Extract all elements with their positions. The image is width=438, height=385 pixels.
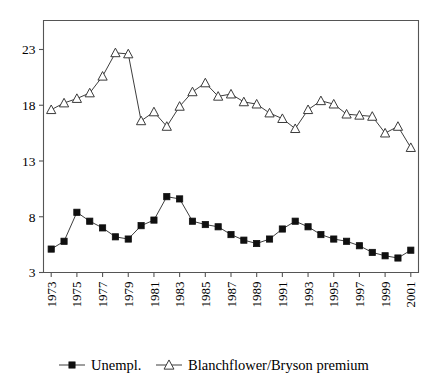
legend-label: Unempl. (91, 357, 141, 373)
data-point-marker-square (382, 253, 388, 259)
data-point-marker-square (343, 238, 349, 244)
data-point-marker-square (292, 218, 298, 224)
data-point-marker-square (331, 236, 337, 242)
data-point-marker-square (177, 196, 183, 202)
y-axis-tick-label: 8 (29, 210, 36, 225)
data-point-marker-triangle (149, 107, 158, 116)
data-point-marker-triangle (72, 94, 81, 103)
data-point-marker-triangle (85, 88, 94, 97)
data-point-marker-triangle (47, 105, 56, 114)
data-point-marker-triangle (188, 87, 197, 96)
y-axis-ticks: 38131823 (22, 42, 44, 280)
data-point-marker-triangle (303, 105, 312, 114)
data-point-marker-square (138, 223, 144, 229)
y-axis-tick-label: 18 (22, 98, 36, 113)
x-axis-tick-label: 1993 (301, 282, 316, 308)
data-point-marker-square (189, 218, 195, 224)
chart-figure: 38131823 1973197519771979198119831985198… (0, 0, 438, 385)
data-point-marker-square (318, 231, 324, 237)
data-point-marker-square (151, 217, 157, 223)
series-line-path (51, 53, 411, 148)
data-point-marker-square (305, 224, 311, 230)
x-axis-tick-label: 1995 (326, 282, 341, 308)
data-point-marker-triangle (201, 78, 210, 87)
data-point-marker-triangle (342, 109, 351, 118)
x-axis-tick-label: 1985 (198, 282, 213, 308)
x-axis-ticks: 1973197519771979198119831985198719891991… (44, 273, 419, 308)
x-axis-tick-label: 1979 (121, 282, 136, 308)
x-axis-tick-label: 1973 (44, 282, 59, 308)
data-series (47, 48, 416, 261)
series-unempl (48, 194, 414, 262)
legend-item-premium[interactable]: Blanchflower/Bryson premium (156, 357, 370, 373)
x-axis-tick-label: 1991 (275, 282, 290, 308)
data-point-marker-square (408, 247, 414, 253)
x-axis-tick-label: 1999 (378, 282, 393, 308)
data-point-marker-square (69, 362, 75, 368)
data-point-marker-triangle (380, 128, 389, 137)
x-axis-tick-label: 1977 (95, 281, 110, 308)
data-point-marker-triangle (265, 108, 274, 117)
data-point-marker-square (125, 236, 131, 242)
data-point-marker-square (61, 238, 67, 244)
legend-label: Blanchflower/Bryson premium (188, 357, 370, 373)
series-premium (47, 48, 416, 151)
data-point-marker-square (254, 240, 260, 246)
x-axis-tick-label: 2001 (403, 282, 418, 308)
line-chart: 38131823 1973197519771979198119831985198… (0, 0, 438, 385)
x-axis-tick-label: 1989 (249, 282, 264, 308)
legend-item-unempl[interactable]: Unempl. (59, 357, 141, 373)
data-point-marker-square (164, 194, 170, 200)
data-point-marker-square (112, 234, 118, 240)
data-point-marker-square (228, 231, 234, 237)
data-point-marker-triangle (98, 72, 107, 81)
data-point-marker-square (356, 243, 362, 249)
data-point-marker-triangle (226, 89, 235, 98)
data-point-marker-square (202, 221, 208, 227)
data-point-marker-triangle (136, 116, 145, 125)
data-point-marker-square (241, 237, 247, 243)
x-axis-tick-label: 1983 (172, 282, 187, 308)
data-point-marker-triangle (316, 96, 325, 105)
data-point-marker-square (215, 224, 221, 230)
chart-legend: Unempl.Blanchflower/Bryson premium (59, 357, 370, 373)
data-point-marker-square (369, 249, 375, 255)
data-point-marker-triangle (291, 124, 300, 133)
data-point-marker-triangle (406, 143, 415, 152)
data-point-marker-triangle (239, 97, 248, 106)
data-point-marker-triangle (164, 360, 174, 369)
data-point-marker-triangle (393, 122, 402, 131)
data-point-marker-square (74, 209, 80, 215)
data-point-marker-triangle (59, 98, 68, 107)
data-point-marker-square (395, 255, 401, 261)
x-axis-tick-label: 1987 (224, 281, 239, 308)
y-axis-tick-label: 13 (22, 154, 36, 169)
data-point-marker-triangle (278, 114, 287, 123)
data-point-marker-square (99, 225, 105, 231)
data-point-marker-square (48, 246, 54, 252)
data-point-marker-square (87, 218, 93, 224)
data-point-marker-square (279, 226, 285, 232)
y-axis-tick-label: 23 (22, 42, 36, 57)
data-point-marker-square (266, 236, 272, 242)
data-point-marker-triangle (111, 48, 120, 57)
x-axis-tick-label: 1975 (69, 282, 84, 308)
y-axis-tick-label: 3 (29, 265, 36, 280)
x-axis-tick-label: 1997 (352, 281, 367, 308)
x-axis-tick-label: 1981 (147, 282, 162, 308)
